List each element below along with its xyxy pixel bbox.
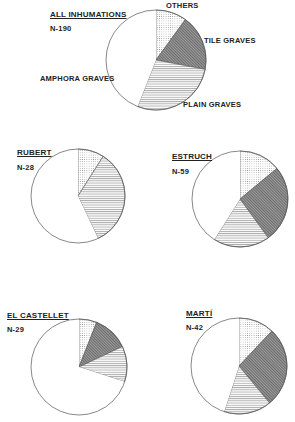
pie-charts-figure [0, 0, 295, 422]
n-count-rubert: N-28 [17, 163, 34, 172]
n-count-all: N-190 [50, 24, 71, 33]
chart-title-marti: MARTÍ [186, 309, 212, 318]
legend-label-tile-graves: TILE GRAVES [204, 36, 256, 45]
n-count-marti: N-42 [186, 323, 203, 332]
legend-label-amphora-graves: AMPHORA GRAVES [40, 74, 114, 83]
n-count-estruch: N-59 [172, 167, 189, 176]
pie-rubert [31, 149, 125, 243]
chart-title-rubert: RUBERT [17, 148, 52, 157]
pie-all-inhumations [106, 10, 206, 110]
pie-estruch [192, 151, 288, 247]
pie-el-castellet [31, 319, 127, 415]
pie-mart- [191, 318, 287, 414]
chart-title-all-inhumations: ALL INHUMATIONS [50, 10, 126, 19]
n-count-el-castellet: N-29 [7, 325, 24, 334]
chart-title-el-castellet: EL CASTELLET [7, 311, 69, 320]
legend-label-plain-graves: PLAIN GRAVES [183, 100, 241, 109]
legend-label-others: OTHERS [166, 1, 198, 10]
chart-title-estruch: ESTRUCH [172, 152, 212, 161]
